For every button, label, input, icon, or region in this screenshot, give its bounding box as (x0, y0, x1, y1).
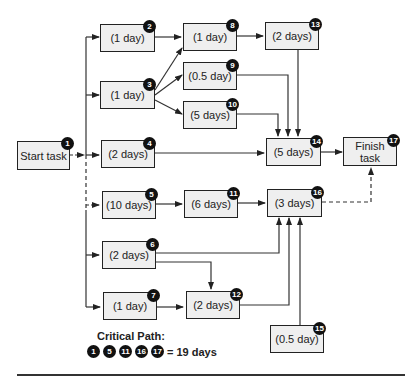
edge-3-10 (155, 100, 182, 114)
task-badge: 9 (226, 59, 239, 72)
task-badge: 4 (143, 137, 156, 150)
task-label: (1 day) (113, 300, 147, 312)
task-badge: 10 (226, 98, 239, 111)
task-badge: 1 (61, 137, 74, 150)
edge-3-8 (155, 48, 182, 90)
task-badge: 15 (313, 322, 326, 335)
task-label: (3 days) (275, 197, 315, 209)
task-badge: 7 (147, 289, 160, 302)
task-label: (10 days) (106, 199, 152, 211)
task-label: Finish task (350, 140, 390, 164)
task-label: (2 days) (272, 30, 312, 42)
task-badge: 5 (145, 188, 158, 201)
critical-path-title: Critical Path: (97, 330, 165, 342)
task-label: (2 days) (193, 299, 233, 311)
task-label: (0.5 day) (275, 333, 318, 345)
task-badge: 17 (387, 134, 400, 147)
task-badge: 14 (310, 135, 323, 148)
task-badge: 6 (146, 238, 159, 251)
task-label: (6 days) (191, 198, 231, 210)
task-label: (2 days) (109, 249, 149, 261)
task-label: (5 days) (274, 146, 314, 158)
task-label: (5 days) (190, 109, 230, 121)
task-badge: 2 (143, 20, 156, 33)
task-badge: 11 (227, 187, 240, 200)
edge-3-9 (155, 75, 182, 95)
task-badge: 12 (230, 288, 243, 301)
task-label: Start task (20, 150, 66, 162)
critical-path-node: 11 (119, 345, 132, 358)
critical-path-node: 5 (103, 345, 116, 358)
edge-6-16 (156, 218, 279, 253)
critical-path-row: 1 5 11 16 17 = 19 days (87, 345, 217, 358)
critical-path-node: 17 (151, 345, 164, 358)
task-badge: 3 (143, 78, 156, 91)
critical-path-node: 16 (135, 345, 148, 358)
critical-path-node: 1 (87, 345, 100, 358)
connector-layer (0, 0, 414, 376)
task-label: (1 day) (193, 31, 227, 43)
task-badge: 13 (309, 18, 322, 31)
edge-10-14 (237, 114, 278, 136)
critical-path-total: = 19 days (167, 346, 217, 358)
task-badge: 16 (311, 186, 324, 199)
task-label: (1 day) (110, 32, 144, 44)
task-label: (0.5 day) (188, 70, 231, 82)
edge-12-16 (240, 218, 289, 305)
task-label: (1 day) (110, 89, 144, 101)
task-label: (2 days) (108, 148, 148, 160)
task-badge: 8 (226, 19, 239, 32)
edge-9-14 (237, 75, 288, 136)
edge-16-17 (322, 168, 371, 202)
edge-6-12 (156, 262, 211, 289)
